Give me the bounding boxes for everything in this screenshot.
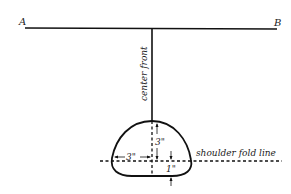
label-a: A xyxy=(18,16,26,27)
label-b: B xyxy=(273,17,281,28)
arrow-right-icon xyxy=(147,156,151,159)
inch-measure-label: 1" xyxy=(166,164,176,174)
pattern-diagram: A B center front shoulder fold line 3" 3… xyxy=(0,0,291,194)
arrow-down-small-icon xyxy=(170,156,173,160)
arrow-up-small-icon xyxy=(170,177,173,181)
center-front-label: center front xyxy=(139,46,149,101)
arrow-left-icon xyxy=(114,156,118,159)
line-a-b xyxy=(25,28,277,29)
arrow-up-icon xyxy=(156,123,159,127)
vertical-measure-label: 3" xyxy=(155,137,165,147)
horizontal-measure-label: 3" xyxy=(126,152,136,162)
arrow-down-icon xyxy=(156,156,159,160)
shoulder-fold-label: shoulder fold line xyxy=(196,148,276,158)
